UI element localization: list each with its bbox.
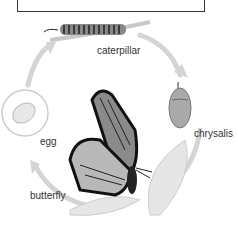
chrysalis-illustration (169, 82, 191, 128)
caterpillar-label: caterpillar (97, 45, 140, 56)
caterpillar-illustration (44, 22, 150, 40)
butterfly-illustration (70, 91, 152, 195)
chrysalis-label: chrysalis (194, 128, 233, 139)
egg-label: egg (40, 136, 57, 147)
egg-illustration (2, 90, 48, 136)
butterfly-label: butterfly (30, 190, 66, 201)
